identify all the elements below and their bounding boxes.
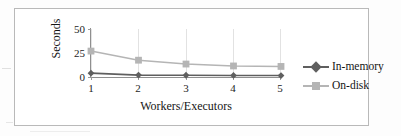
diamond-marker-icon	[88, 70, 95, 77]
y-axis-tick	[88, 77, 91, 78]
x-tick-label-1: 1	[88, 83, 94, 94]
x-tick-label-3: 3	[183, 83, 189, 94]
legend-swatch-in-memory	[303, 61, 329, 73]
square-marker-icon	[135, 57, 142, 64]
diamond-marker-icon	[310, 61, 321, 72]
legend-label-in-memory: In-memory	[332, 61, 384, 73]
legend-swatch-on-disk	[303, 80, 329, 92]
chart-frame: 0 25 50 Seconds 1 2 3	[14, 8, 369, 126]
scan-artifact	[2, 68, 11, 69]
legend-label-on-disk: On-disk	[332, 80, 369, 92]
square-marker-icon	[183, 61, 190, 68]
series-plot	[91, 29, 281, 77]
chart-legend: In-memory On-disk	[303, 57, 381, 95]
square-marker-icon	[230, 63, 237, 70]
scan-artifact	[30, 131, 90, 132]
square-marker-icon	[88, 48, 95, 55]
y-tick-label-0: 0	[80, 72, 86, 83]
scan-artifact	[6, 122, 13, 123]
y-axis-title: Seconds	[49, 16, 64, 62]
x-axis-tick	[91, 77, 92, 80]
x-tick-label-4: 4	[230, 83, 236, 94]
legend-item-on-disk[interactable]: On-disk	[303, 76, 381, 95]
square-marker-icon	[278, 63, 285, 70]
y-tick-label-25: 25	[74, 48, 85, 59]
legend-item-in-memory[interactable]: In-memory	[303, 57, 381, 76]
y-tick-label-50: 50	[74, 24, 85, 35]
chart-screenshot: 0 25 50 Seconds 1 2 3	[0, 0, 401, 136]
x-tick-label-5: 5	[277, 83, 283, 94]
plot-area	[91, 29, 281, 77]
square-marker-icon	[312, 82, 320, 90]
x-tick-label-2: 2	[135, 83, 141, 94]
x-tick-labels: 1 2 3 4 5	[91, 83, 281, 97]
x-axis-title: Workers/Executors	[91, 99, 281, 114]
